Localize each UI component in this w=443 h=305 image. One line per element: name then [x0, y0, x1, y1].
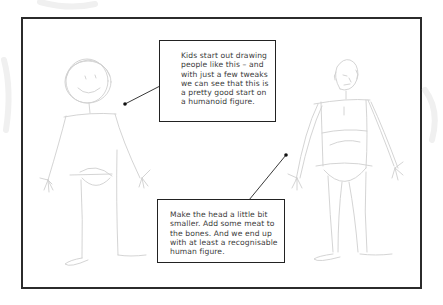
diagram-canvas: Kids start out drawing people like this …: [0, 0, 443, 305]
callout-line: Kids start out drawing: [181, 51, 269, 60]
anchor-dot-icon: [284, 153, 288, 157]
stick-figure-neck: [89, 103, 90, 113]
stick-figure-right-leg: [117, 150, 118, 255]
humanoid-figure-torso: [316, 100, 372, 168]
callout-stick-figure: Kids start out drawing people like this …: [159, 40, 276, 122]
humanoid-figure-left-foot: [314, 254, 340, 261]
stick-figure-hips: [70, 174, 112, 175]
anchor-dot-icon: [123, 102, 127, 106]
callout-connector-1: [123, 86, 160, 106]
stick-figure-left-foot: [65, 258, 88, 265]
stick-figure-left-arm: [48, 116, 66, 180]
callout-line: a humanoid figure.: [181, 97, 269, 106]
callout-connector-2: [249, 153, 288, 200]
humanoid-figure-head: [334, 60, 358, 90]
callout-line: with just a few tweaks: [181, 70, 269, 79]
humanoid-figure-shoulders: [314, 100, 370, 105]
stick-figure-pelvis: [82, 178, 110, 186]
stick-figure-shoulders: [64, 113, 116, 117]
stick-figure-right-arm: [115, 114, 140, 178]
stick-figure-left-hand: [40, 178, 53, 192]
callout-line: the bones. And we end up: [170, 229, 278, 238]
stick-figure-right-hand: [139, 170, 150, 188]
callout-line: with at least a recognisable: [170, 238, 278, 247]
callout-line: smaller. Add some meat to: [170, 219, 278, 228]
callout-line: a pretty good start on: [181, 88, 269, 97]
humanoid-figure-pelvis: [324, 168, 366, 182]
humanoid-figure-arms: [296, 100, 398, 180]
humanoid-figure-legs: [328, 172, 367, 252]
callout-line: human figure.: [170, 247, 278, 256]
callout-line: we can see that this is: [181, 79, 269, 88]
stick-figure-head: [65, 59, 111, 103]
stick-figure-right-foot: [118, 255, 146, 256]
stick-figure-left-leg: [81, 180, 82, 258]
stick-figure-drawing: [40, 59, 150, 265]
callout-humanoid-figure: Make the head a little bit smaller. Add …: [157, 199, 285, 263]
callout-line: Make the head a little bit: [170, 210, 278, 219]
humanoid-figure-drawing: [288, 60, 403, 261]
humanoid-figure-right-foot: [360, 254, 392, 255]
callout-line: people like this – and: [181, 60, 269, 69]
